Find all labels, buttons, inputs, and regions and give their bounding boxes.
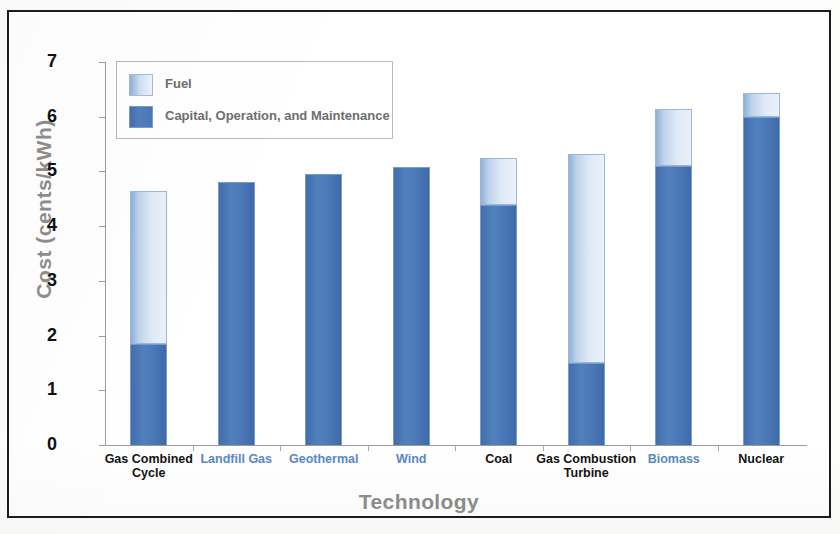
x-tick-1: [193, 445, 194, 451]
y-tick-6: [99, 117, 105, 118]
figure-canvas: Cost (cents/kWh) 01234567 Gas Combined C…: [0, 0, 840, 534]
y-tick-7: [99, 62, 105, 63]
x-category-label-7: Nuclear: [703, 452, 819, 466]
y-tick-label-5: 5: [17, 160, 57, 181]
legend-swatch-capital-icon: [129, 106, 153, 128]
bar-nuclear: [743, 93, 780, 445]
bar-segment-capital: [393, 167, 430, 445]
bar-segment-capital: [480, 205, 517, 445]
y-tick-0: [99, 445, 105, 446]
y-tick-2: [99, 336, 105, 337]
bar-gas-combustion-turbine: [568, 154, 605, 445]
bar-geothermal: [305, 174, 342, 445]
y-tick-3: [99, 281, 105, 282]
chart-frame: Cost (cents/kWh) 01234567 Gas Combined C…: [7, 10, 831, 518]
chart-legend: Fuel Capital, Operation, and Maintenance: [116, 61, 393, 139]
y-tick-4: [99, 226, 105, 227]
y-tick-label-2: 2: [17, 325, 57, 346]
legend-swatch-fuel-icon: [129, 74, 153, 96]
y-tick-label-6: 6: [17, 106, 57, 127]
bar-segment-capital: [305, 174, 342, 445]
y-tick-label-1: 1: [17, 379, 57, 400]
bar-segment-capital: [218, 182, 255, 445]
bar-landfill-gas: [218, 182, 255, 445]
y-tick-label-0: 0: [17, 434, 57, 455]
y-tick-label-3: 3: [17, 270, 57, 291]
bar-coal: [480, 158, 517, 445]
bar-biomass: [655, 109, 692, 445]
legend-label-fuel: Fuel: [165, 76, 192, 91]
y-axis-line: [105, 62, 106, 446]
bar-segment-capital: [568, 363, 605, 445]
bar-segment-fuel: [568, 154, 605, 363]
x-axis-line: [105, 445, 807, 446]
x-axis-title: Technology: [9, 490, 829, 514]
y-tick-1: [99, 390, 105, 391]
bar-gas-combined-cycle: [130, 191, 167, 445]
bar-segment-capital: [655, 166, 692, 445]
bar-segment-fuel: [480, 158, 517, 206]
x-tick-5: [543, 445, 544, 451]
y-tick-label-7: 7: [17, 51, 57, 72]
x-tick-4: [455, 445, 456, 451]
bar-segment-capital: [743, 117, 780, 445]
bar-wind: [393, 167, 430, 445]
legend-label-capital: Capital, Operation, and Maintenance: [165, 108, 390, 123]
bar-segment-fuel: [130, 191, 167, 344]
y-tick-5: [99, 171, 105, 172]
bar-segment-capital: [130, 344, 167, 445]
bar-segment-fuel: [743, 93, 780, 117]
x-tick-6: [630, 445, 631, 451]
x-tick-7: [718, 445, 719, 451]
bar-segment-fuel: [655, 109, 692, 166]
x-tick-3: [368, 445, 369, 451]
x-tick-2: [280, 445, 281, 451]
y-tick-label-4: 4: [17, 215, 57, 236]
